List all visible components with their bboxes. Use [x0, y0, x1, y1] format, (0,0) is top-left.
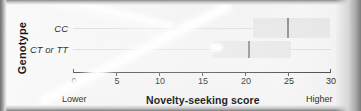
x-axis-tick-label-10: 10: [147, 76, 173, 86]
x-axis-anchor-high: Higher: [306, 94, 333, 104]
x-axis-tick-label-5: 5: [104, 76, 130, 86]
page-edge-left: [0, 0, 7, 111]
interval-band-ct-or-tt: [213, 41, 291, 58]
page-edge-right: [335, 0, 361, 111]
plot-area: 0 5 10 15 20 25 30 CC CT or TT Genotype …: [0, 0, 361, 111]
interval-band-cc: [253, 18, 330, 38]
row-rule-ct-or-tt: [73, 49, 331, 50]
x-axis-tick-0: [73, 69, 74, 73]
x-axis-anchor-low: Lower: [62, 94, 87, 104]
page-edge-top: [0, 0, 361, 5]
x-axis-tick-label-20: 20: [233, 76, 259, 86]
y-axis-title: Genotype: [16, 16, 28, 80]
x-axis-tick-label-25: 25: [276, 76, 302, 86]
median-tick-cc: [287, 18, 289, 38]
x-axis-tick-30: [330, 69, 331, 73]
page-edge-bottom: [0, 105, 361, 111]
median-tick-ct-or-tt: [248, 41, 250, 58]
x-axis-tick-label-0: 0: [61, 76, 87, 86]
x-axis-tick-label-15: 15: [190, 76, 216, 86]
novelty-seeking-genotype-figure: 0 5 10 15 20 25 30 CC CT or TT Genotype …: [0, 0, 361, 111]
